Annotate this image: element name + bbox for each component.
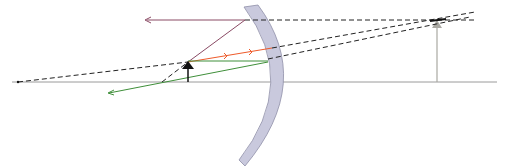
ray-diagram-canvas (0, 0, 505, 168)
orange-ray (188, 48, 272, 62)
dashed-extensions (18, 12, 475, 82)
convex-mirror (239, 5, 284, 166)
virtual-image-arrow (432, 20, 442, 82)
focal-point-marker (17, 81, 19, 83)
ray-diagram (0, 0, 505, 168)
